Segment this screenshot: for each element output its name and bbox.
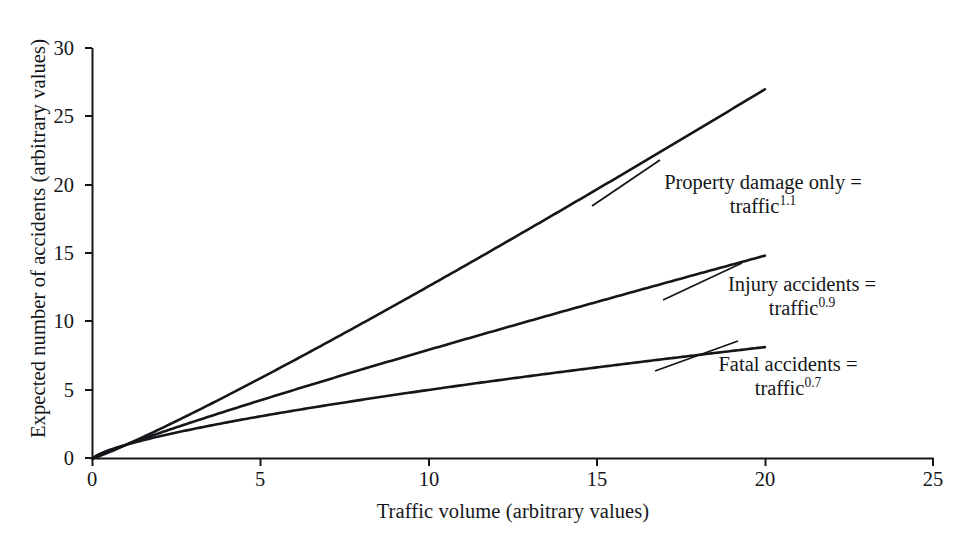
curve-property-damage-only	[93, 89, 765, 458]
annotation-fat-base: traffic	[755, 377, 805, 399]
annotation-injury-accidents: Injury accidents = traffic0.9	[695, 272, 909, 320]
annotation-inj-base: traffic	[769, 297, 819, 319]
plot-area	[0, 0, 963, 542]
annotation-fatal-accidents: Fatal accidents = traffic0.7	[688, 352, 888, 400]
chart-figure: Expected number of accidents (arbitrary …	[0, 0, 963, 542]
annotation-pdo-base: traffic	[730, 195, 780, 217]
annotation-inj-exponent: 0.9	[818, 295, 835, 310]
annotation-inj-line1: Injury accidents =	[728, 273, 876, 295]
curve-fatal-accidents	[93, 347, 765, 458]
annotation-pdo-line1: Property damage only =	[664, 171, 862, 193]
annotation-property-damage-only: Property damage only = traffic1.1	[630, 170, 896, 218]
data-curves	[93, 89, 765, 458]
annotation-fat-exponent: 0.7	[804, 375, 821, 390]
y-axis-ticks	[85, 48, 92, 458]
annotation-pdo-exponent: 1.1	[779, 193, 796, 208]
annotation-fat-line1: Fatal accidents =	[718, 353, 857, 375]
